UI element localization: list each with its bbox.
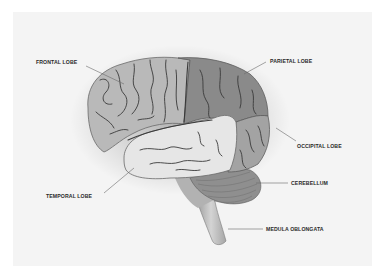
label-temporal-lobe: TEMPORAL LOBE [46, 193, 92, 199]
brain-diagram [0, 0, 385, 277]
label-medulla-oblongata: MEDULA OBLONGATA [266, 226, 324, 232]
label-cerebellum: CEREBELLUM [291, 180, 328, 186]
label-parietal-lobe: PARIETAL LOBE [270, 58, 312, 64]
label-frontal-lobe: FRONTAL LOBE [36, 59, 77, 65]
label-occipital-lobe: OCCIPITAL LOBE [297, 143, 342, 149]
